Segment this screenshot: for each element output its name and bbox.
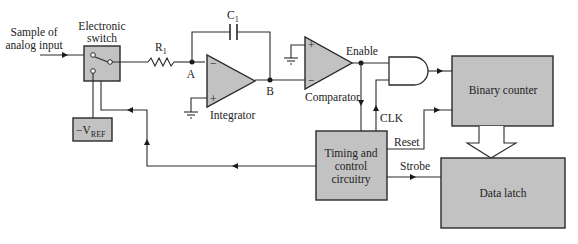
switch-contact-vref — [91, 69, 96, 74]
control-up-arrow-icon — [144, 139, 150, 145]
enable-label: Enable — [346, 45, 378, 57]
node-b-dot — [268, 78, 273, 83]
data-latch-label: Data latch — [480, 187, 527, 199]
wire-comparator-ground — [291, 45, 305, 58]
node-a-label: A — [187, 68, 196, 80]
input-label-line2: analog input — [5, 39, 63, 52]
wire-integrator-ground — [191, 98, 207, 112]
timing-label-line1: Timing and — [325, 147, 378, 160]
switch-contact-input — [91, 53, 96, 58]
electronic-switch — [84, 46, 120, 81]
integrator-plus: + — [210, 93, 217, 105]
timing-label-line3: circuitry — [332, 173, 371, 186]
capacitor-label: C1 — [227, 9, 239, 24]
control-left-arrow-icon — [127, 107, 133, 113]
binary-counter-label: Binary counter — [469, 84, 538, 97]
node-b-label: B — [266, 85, 274, 97]
clk-label: CLK — [380, 112, 404, 124]
resistor-label: R1 — [155, 41, 167, 56]
input-arrow-icon — [62, 52, 68, 58]
comparator-minus: − — [308, 74, 315, 86]
parallel-data-arrow — [467, 126, 516, 158]
switch-label-line2: switch — [87, 32, 117, 44]
control-timing-arrow-icon — [232, 163, 238, 169]
and-output-arrow-icon — [437, 68, 443, 74]
resistor-r1 — [148, 58, 174, 66]
integrator-label: Integrator — [210, 109, 256, 122]
switch-contact-output — [108, 60, 113, 65]
clk-up-arrow-icon — [373, 105, 379, 111]
ground-icon-integrator — [184, 112, 198, 118]
comparator-label: Comparator — [305, 91, 360, 104]
reset-arrow-icon — [434, 107, 440, 113]
wire-cap-right — [237, 32, 270, 80]
input-label-line1: Sample of — [11, 26, 58, 39]
switch-label-line1: Electronic — [78, 20, 125, 32]
strobe-label: Strobe — [400, 160, 430, 172]
reset-label: Reset — [394, 136, 420, 148]
integrator-minus: − — [210, 57, 217, 69]
comparator-plus: + — [308, 39, 315, 51]
adc-diagram: Sample of analog input Electronic switch… — [0, 0, 578, 244]
and-gate — [389, 57, 428, 85]
strobe-arrow-icon — [410, 174, 416, 180]
ground-icon-comparator — [284, 58, 298, 64]
diagram-svg: Sample of analog input Electronic switch… — [0, 0, 578, 244]
enable-down-arrow-icon — [358, 100, 364, 106]
timing-label-line2: control — [335, 160, 368, 172]
